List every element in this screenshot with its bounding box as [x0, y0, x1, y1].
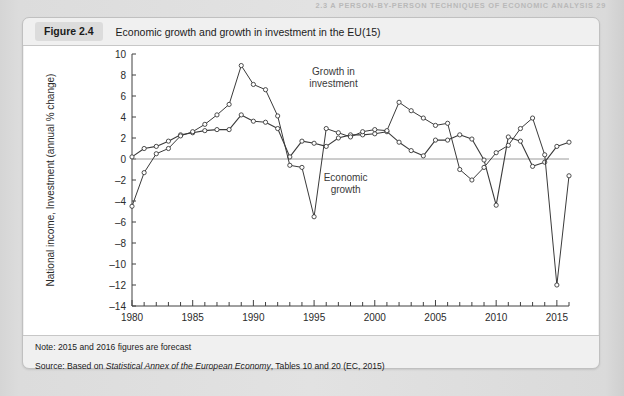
- data-point: [421, 116, 425, 120]
- data-point: [373, 128, 377, 132]
- data-point: [300, 165, 304, 169]
- data-point: [312, 141, 316, 145]
- data-point: [373, 132, 377, 136]
- data-point: [288, 163, 292, 167]
- data-point: [312, 215, 316, 219]
- data-point: [421, 154, 425, 158]
- data-point: [494, 203, 498, 207]
- x-tick-label: 2005: [424, 312, 447, 323]
- figure-footer: Note: 2015 and 2016 figures are forecast…: [23, 335, 599, 368]
- y-tick-label: 10: [115, 49, 127, 60]
- data-point: [446, 138, 450, 142]
- data-point: [203, 129, 207, 133]
- data-point: [239, 63, 243, 67]
- data-point: [324, 144, 328, 148]
- data-point: [154, 152, 158, 156]
- data-point: [555, 283, 559, 287]
- data-point: [530, 164, 534, 168]
- x-tick-label: 1990: [242, 312, 265, 323]
- data-point: [567, 140, 571, 144]
- data-point: [567, 174, 571, 178]
- data-point: [433, 138, 437, 142]
- data-point: [458, 133, 462, 137]
- data-point: [336, 131, 340, 135]
- y-tick-label: –6: [115, 217, 127, 228]
- data-point: [324, 126, 328, 130]
- data-point: [166, 146, 170, 150]
- figure-note: Note: 2015 and 2016 figures are forecast: [35, 342, 599, 352]
- data-point: [518, 139, 522, 143]
- data-point: [494, 151, 498, 155]
- data-point: [385, 129, 389, 133]
- data-point: [482, 165, 486, 169]
- data-point: [276, 114, 280, 118]
- data-point: [251, 119, 255, 123]
- data-point: [518, 126, 522, 130]
- data-point: [506, 135, 510, 139]
- annotation-growth-in-investment-line2: investment: [309, 78, 358, 89]
- data-point: [142, 146, 146, 150]
- data-point: [397, 140, 401, 144]
- figure-container: Figure 2.4 Economic growth and growth in…: [22, 17, 600, 369]
- data-point: [506, 143, 510, 147]
- y-tick-label: 6: [120, 91, 126, 102]
- data-point: [409, 149, 413, 153]
- source-prefix: Source: Based on: [35, 361, 106, 371]
- data-point: [397, 100, 401, 104]
- figure-source: Source: Based on Statistical Annex of th…: [35, 361, 599, 371]
- data-point: [263, 88, 267, 92]
- running-head: 2.3 A PERSON-BY-PERSON TECHNIQUES OF ECO…: [315, 1, 606, 10]
- x-tick-label: 1980: [121, 312, 144, 323]
- x-tick-label: 1985: [182, 312, 205, 323]
- y-tick-label: 2: [120, 133, 126, 144]
- x-tick-label: 1995: [303, 312, 326, 323]
- figure-header: Figure 2.4 Economic growth and growth in…: [23, 18, 599, 46]
- data-point: [446, 121, 450, 125]
- y-tick-label: 4: [120, 112, 126, 123]
- data-point: [433, 123, 437, 127]
- data-point: [142, 171, 146, 175]
- annotation-economic-growth-line2: growth: [331, 184, 361, 195]
- data-point: [300, 139, 304, 143]
- data-point: [178, 134, 182, 138]
- data-point: [470, 178, 474, 182]
- figure-title: Economic growth and growth in investment…: [116, 26, 381, 38]
- source-italic-title: Statistical Annex of the European Econom…: [106, 361, 271, 371]
- data-point: [215, 113, 219, 117]
- data-point: [543, 153, 547, 157]
- y-tick-label: –14: [109, 301, 126, 312]
- data-point: [458, 167, 462, 171]
- data-point: [203, 122, 207, 126]
- y-tick-label: 8: [120, 70, 126, 81]
- data-point: [348, 135, 352, 139]
- data-point: [251, 82, 255, 86]
- data-point: [543, 160, 547, 164]
- x-tick-label: 2015: [546, 312, 569, 323]
- data-point: [530, 116, 534, 120]
- data-point: [215, 128, 219, 132]
- data-point: [227, 128, 231, 132]
- y-tick-label: 0: [120, 154, 126, 165]
- figure-number-badge: Figure 2.4: [35, 22, 103, 41]
- data-point: [555, 144, 559, 148]
- x-tick-label: 2010: [485, 312, 508, 323]
- data-point: [191, 130, 195, 134]
- y-axis-title: National income, Investment (annual % ch…: [45, 74, 56, 287]
- data-point: [239, 113, 243, 117]
- y-tick-label: –8: [115, 238, 127, 249]
- data-point: [470, 137, 474, 141]
- data-point: [263, 120, 267, 124]
- annotation-economic-growth-line1: Economic: [324, 172, 368, 183]
- y-tick-label: –12: [109, 280, 126, 291]
- y-tick-label: –10: [109, 259, 126, 270]
- data-point: [361, 130, 365, 134]
- y-tick-label: –2: [115, 175, 127, 186]
- y-tick-label: –4: [115, 196, 127, 207]
- data-point: [336, 136, 340, 140]
- data-point: [130, 155, 134, 159]
- data-point: [409, 109, 413, 113]
- data-point: [227, 102, 231, 106]
- data-point: [130, 204, 134, 208]
- data-point: [276, 126, 280, 130]
- x-tick-label: 2000: [364, 312, 387, 323]
